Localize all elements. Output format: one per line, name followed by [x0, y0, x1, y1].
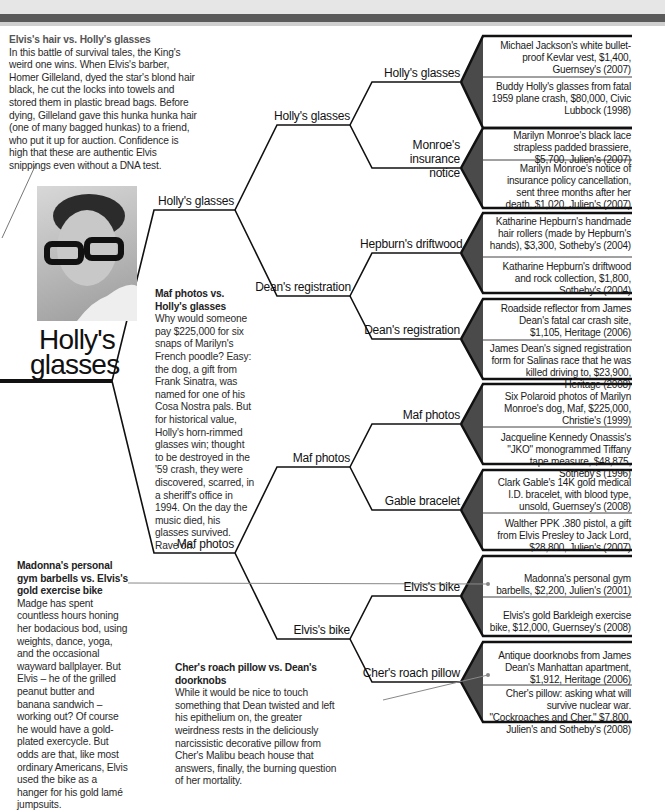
auction-item: Roadside reflector from James Dean's fat…	[488, 303, 631, 339]
blurb-title: Elvis's hair vs. Holly's glasses	[9, 34, 199, 47]
auction-item: Buddy Holly's glasses from fatal 1959 pl…	[488, 81, 631, 117]
round3-label: Hepburn's driftwood	[360, 237, 460, 251]
auction-item: Elvis's gold Barkleigh exercise bike, $1…	[488, 610, 631, 634]
blurb-body: Madge has spent countless hours honing h…	[17, 598, 128, 811]
blurb-body: In this battle of survival tales, the Ki…	[9, 47, 197, 171]
blurb-elvis-hair: Elvis's hair vs. Holly's glasses In this…	[9, 34, 199, 173]
round3-label: Gable bracelet	[370, 494, 460, 508]
auction-item: Clark Gable's 14K gold medical I.D. brac…	[488, 477, 631, 513]
auction-item: Walther PPK .380 pistol, a gift from Elv…	[488, 518, 631, 554]
round1-label: Maf photos	[150, 537, 234, 551]
round1-label: Holly's glasses	[150, 194, 234, 208]
auction-item: Cher's pillow: asking what will survive …	[488, 688, 631, 736]
blurb-cher-dean: Cher's roach pillow vs. Dean's doorknobs…	[175, 662, 340, 788]
auction-item: Katharine Hepburn's handmade hair roller…	[488, 216, 631, 252]
round2-label: Holly's glasses	[270, 109, 350, 123]
round2-label: Dean's registration	[255, 280, 351, 294]
round3-label: Elvis's bike	[370, 580, 460, 594]
portrait-icon	[37, 186, 137, 321]
round3-label: Cher's roach pillow	[350, 666, 460, 680]
auction-item: Marilyn Monroe's black lace strapless pa…	[488, 130, 631, 166]
blurb-maf-photos: Maf photos vs. Holly's glasses Why would…	[155, 288, 255, 552]
blurb-body: Why would someone pay $225,000 for six s…	[155, 313, 254, 551]
auction-item: Jacqueline Kennedy Onassis's "JKO" monog…	[488, 432, 631, 480]
blurb-title: Maf photos vs. Holly's glasses	[155, 288, 255, 313]
blurb-body: While it would be nice to touch somethin…	[175, 687, 336, 786]
round3-label: Monroe's insurance notice	[380, 138, 460, 180]
round2-label: Maf photos	[270, 451, 350, 465]
auction-item: Michael Jackson's white bullet-proof Kev…	[488, 40, 631, 76]
blurb-madonna-elvis: Madonna's personal gym barbells vs. Elvi…	[17, 560, 129, 812]
auction-item: Marilyn Monroe's notice of insurance pol…	[488, 163, 631, 211]
round3-label: Dean's registration	[360, 323, 460, 337]
champion-label: Holly's glasses	[30, 327, 115, 377]
round2-label: Elvis's bike	[270, 623, 350, 637]
blurb-title: Cher's roach pillow vs. Dean's doorknobs	[175, 662, 340, 687]
pointer-line-elvis-hair	[2, 164, 36, 238]
auction-item: Madonna's personal gym barbells, $2,200,…	[488, 573, 631, 597]
auction-item: James Dean's signed registration form fo…	[488, 343, 631, 391]
round3-label: Maf photos	[370, 408, 460, 422]
auction-item: Katharine Hepburn's driftwood and rock c…	[488, 261, 631, 297]
auction-item: Six Polaroid photos of Marilyn Monroe's …	[488, 391, 631, 427]
auction-item: Antique doorknobs from James Dean's Manh…	[488, 650, 631, 686]
round3-label: Holly's glasses	[370, 66, 460, 80]
blurb-title: Madonna's personal gym barbells vs. Elvi…	[17, 560, 129, 598]
buddy-holly-photo	[37, 186, 137, 321]
